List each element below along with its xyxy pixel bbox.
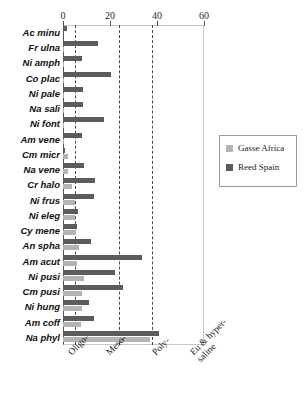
bar-reed-spain-7	[63, 133, 82, 138]
bar-gasse-africa-19	[63, 322, 81, 327]
bar-gasse-africa-3	[63, 78, 64, 83]
bar-row	[0, 284, 304, 299]
bar-reed-spain-20	[63, 331, 159, 336]
bar-gasse-africa-18	[63, 306, 82, 311]
bar-gasse-africa-12	[63, 215, 75, 220]
bar-reed-spain-12	[63, 209, 78, 214]
bar-gasse-africa-17	[63, 291, 82, 296]
bar-gasse-africa-14	[63, 245, 79, 250]
legend-swatch-gasse-africa	[226, 145, 233, 152]
bar-row	[0, 315, 304, 330]
bar-gasse-africa-1	[63, 47, 64, 52]
bar-reed-spain-15	[63, 255, 142, 260]
bar-row	[0, 101, 304, 116]
bar-gasse-africa-11	[63, 200, 75, 205]
bar-gasse-africa-13	[63, 230, 76, 235]
bar-row	[0, 40, 304, 55]
bar-row	[0, 25, 304, 40]
bar-gasse-africa-8	[63, 154, 68, 159]
legend-item-gasse-africa: Gasse Africa	[226, 143, 296, 153]
bar-gasse-africa-5	[63, 108, 64, 113]
bar-row	[0, 116, 304, 131]
legend-item-reed-spain: Reed Spain	[226, 162, 296, 172]
bar-reed-spain-2	[63, 56, 82, 61]
bar-row	[0, 238, 304, 253]
bar-row	[0, 299, 304, 314]
bar-gasse-africa-15	[63, 261, 77, 266]
bar-row	[0, 254, 304, 269]
bar-row	[0, 330, 304, 345]
bar-reed-spain-14	[63, 239, 91, 244]
bar-reed-spain-10	[63, 178, 95, 183]
bar-gasse-africa-4	[63, 93, 64, 98]
bar-gasse-africa-10	[63, 184, 72, 189]
bar-reed-spain-18	[63, 300, 89, 305]
legend-swatch-reed-spain	[226, 164, 233, 171]
salinity-band-labels: Oligo-Meso-Poly-Eu & hyper-saline	[0, 346, 304, 408]
chart-legend: Gasse Africa Reed Spain	[219, 135, 297, 187]
bar-reed-spain-16	[63, 270, 115, 275]
bar-reed-spain-13	[63, 224, 77, 229]
horizontal-bar-chart: 0204060 Ac minuFr ulnaNi amphCo placNi p…	[0, 0, 304, 409]
bar-row	[0, 55, 304, 70]
bar-row	[0, 223, 304, 238]
bar-reed-spain-8	[63, 148, 65, 153]
bar-gasse-africa-16	[63, 276, 84, 281]
bar-reed-spain-0	[63, 26, 67, 31]
bar-gasse-africa-6	[63, 123, 64, 128]
bar-reed-spain-4	[63, 87, 83, 92]
bar-reed-spain-11	[63, 194, 94, 199]
bar-reed-spain-9	[63, 163, 84, 168]
bar-row	[0, 269, 304, 284]
bar-reed-spain-19	[63, 316, 94, 321]
bar-gasse-africa-7	[63, 139, 64, 144]
bar-gasse-africa-2	[63, 62, 64, 67]
bar-row	[0, 86, 304, 101]
bar-row	[0, 208, 304, 223]
legend-label-gasse-africa: Gasse Africa	[238, 143, 284, 153]
bar-reed-spain-6	[63, 117, 104, 122]
bar-row	[0, 193, 304, 208]
bar-gasse-africa-9	[63, 169, 68, 174]
bar-reed-spain-5	[63, 102, 83, 107]
bar-reed-spain-17	[63, 285, 123, 290]
legend-label-reed-spain: Reed Spain	[238, 162, 279, 172]
bar-reed-spain-1	[63, 41, 98, 46]
bar-row	[0, 71, 304, 86]
bar-reed-spain-3	[63, 72, 111, 77]
